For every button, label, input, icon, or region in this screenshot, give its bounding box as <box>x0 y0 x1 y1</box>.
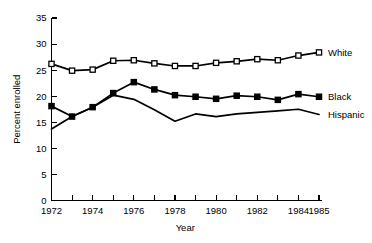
series-label-white: White <box>328 47 352 58</box>
data-point-marker-black <box>172 93 177 98</box>
x-tick-label: 1972 <box>41 205 62 216</box>
data-point-marker-black <box>316 94 321 99</box>
x-tick-label: 1980 <box>206 205 227 216</box>
data-point-marker-black <box>152 87 157 92</box>
data-point-marker-white <box>172 63 177 68</box>
series-label-black: Black <box>328 91 351 102</box>
data-point-marker-white <box>296 53 301 58</box>
y-axis-title: Percent enrolled <box>11 75 22 144</box>
data-point-marker-black <box>49 104 54 109</box>
series-labels-group: WhiteBlackHispanic <box>328 47 365 120</box>
y-tick-label: 30 <box>36 38 47 49</box>
data-point-marker-white <box>131 58 136 63</box>
data-point-marker-white <box>69 68 74 73</box>
y-tick-label: 5 <box>41 169 46 180</box>
data-point-marker-white <box>111 58 116 63</box>
data-point-marker-white <box>90 67 95 72</box>
data-series-group <box>49 50 322 129</box>
data-point-marker-white <box>193 63 198 68</box>
data-point-marker-white <box>255 57 260 62</box>
chart-container: 05101520253035 1972197419761978198019821… <box>0 0 372 243</box>
x-tick-label: 1978 <box>164 205 185 216</box>
data-point-marker-white <box>275 58 280 63</box>
x-tick-label: 1985 <box>308 205 329 216</box>
data-point-marker-black <box>131 80 136 85</box>
data-point-marker-black <box>275 97 280 102</box>
line-chart: 05101520253035 1972197419761978198019821… <box>0 0 372 243</box>
x-tick-label: 1974 <box>82 205 103 216</box>
y-tick-label: 35 <box>36 12 47 23</box>
y-tick-label: 15 <box>36 117 47 128</box>
data-point-marker-black <box>193 94 198 99</box>
x-tick-label: 1984 <box>288 205 309 216</box>
x-tick-label: 1976 <box>123 205 144 216</box>
y-tick-label: 10 <box>36 143 47 154</box>
y-tick-label: 25 <box>36 65 47 76</box>
data-point-marker-black <box>296 92 301 97</box>
x-tick-label: 1982 <box>247 205 268 216</box>
y-tick-label: 20 <box>36 91 47 102</box>
data-point-marker-white <box>214 60 219 65</box>
data-point-marker-white <box>152 61 157 66</box>
data-point-marker-white <box>316 50 321 55</box>
series-label-hispanic: Hispanic <box>328 109 365 120</box>
data-point-marker-black <box>214 96 219 101</box>
data-point-marker-black <box>234 93 239 98</box>
x-axis-ticks: 19721974197619781980198219841985 <box>41 195 330 216</box>
data-point-marker-white <box>49 61 54 66</box>
data-point-marker-white <box>234 59 239 64</box>
data-point-marker-black <box>255 94 260 99</box>
x-axis-title: Year <box>176 222 195 233</box>
